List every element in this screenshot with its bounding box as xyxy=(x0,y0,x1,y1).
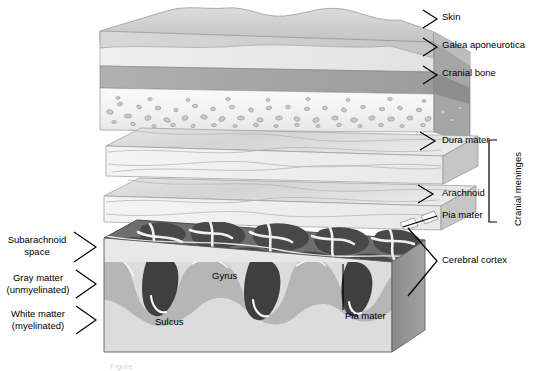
label-pia-mater-inner: Pia mater xyxy=(345,310,386,322)
cerebral-cortex-block xyxy=(104,220,425,356)
label-gray-matter: Gray matter (unmyelinated) xyxy=(2,272,74,296)
label-cerebral-cortex: Cerebral cortex xyxy=(442,254,507,266)
white-matter-line2: (myelinated) xyxy=(12,320,64,331)
label-sulcus: Sulcus xyxy=(155,316,184,328)
label-pia-mater-right: Pia mater xyxy=(442,209,483,221)
scalp-and-bone-slab xyxy=(100,8,470,142)
leader-white-matter xyxy=(76,306,96,334)
subarachnoid-line2: space xyxy=(24,246,49,257)
gray-matter-line2: (unmyelinated) xyxy=(7,284,70,295)
label-gyrus: Gyrus xyxy=(212,270,237,282)
leader-gray-matter xyxy=(76,270,96,298)
label-subarachnoid-space: Subarachnoid space xyxy=(2,234,72,258)
label-cranial-bone: Cranial bone xyxy=(442,67,496,79)
label-arachnoid: Arachnoid xyxy=(442,187,485,199)
dura-mater-slab xyxy=(106,128,478,184)
label-white-matter: White matter (myelinated) xyxy=(2,308,74,332)
figure-caption-fragment: Figure xyxy=(110,362,133,371)
subarachnoid-line1: Subarachnoid xyxy=(8,234,67,245)
white-matter-line1: White matter xyxy=(11,308,65,319)
label-cranial-meninges: Cranial meninges xyxy=(512,152,524,226)
leader-skin xyxy=(423,10,437,28)
cranial-meninges-bracket xyxy=(489,140,497,222)
label-dura-mater: Dura mater xyxy=(442,134,490,146)
leader-subarachnoid xyxy=(74,232,96,262)
gray-matter-line1: Gray matter xyxy=(13,272,63,283)
label-galea-aponeurotica: Galea aponeurotica xyxy=(442,39,525,51)
label-skin: Skin xyxy=(442,11,460,23)
